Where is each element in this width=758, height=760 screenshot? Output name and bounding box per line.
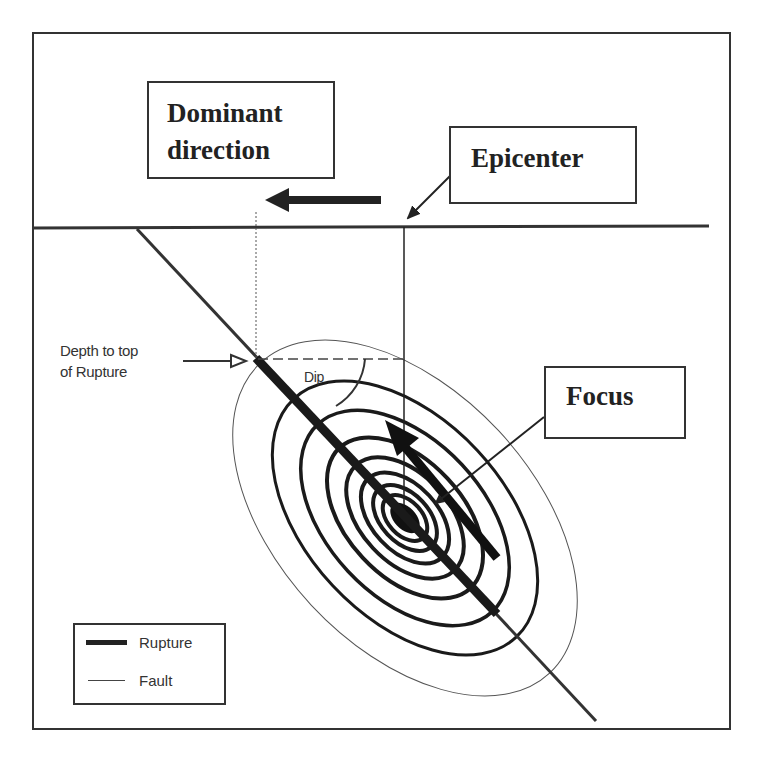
legend-label-rupture: Rupture <box>139 634 192 651</box>
dominant-direction-label-line2: direction <box>167 131 270 169</box>
dominant-direction-arrowhead <box>265 188 289 212</box>
focus-pointer <box>436 417 544 503</box>
fault-swatch-icon <box>88 680 125 681</box>
dominant-direction-label-line1: Dominant <box>167 94 283 132</box>
focus-label: Focus <box>566 377 634 415</box>
legend-label-fault: Fault <box>139 672 172 689</box>
epicenter-label: Epicenter <box>471 139 583 177</box>
dip-label: Dip <box>304 367 324 387</box>
depth-to-top-label-line2: of Rupture <box>60 362 127 382</box>
depth-pointer-arrowhead <box>231 355 246 367</box>
legend-item-fault: Fault <box>86 672 172 689</box>
legend-item-rupture: Rupture <box>86 634 192 651</box>
epicenter-pointer <box>408 176 450 218</box>
depth-to-top-label-line1: Depth to top <box>60 341 138 361</box>
rupture-swatch-icon <box>86 640 127 645</box>
earthquake-rupture-diagram: Dominant direction Epicenter Focus Depth… <box>0 0 758 760</box>
ground-surface-line <box>33 226 709 228</box>
